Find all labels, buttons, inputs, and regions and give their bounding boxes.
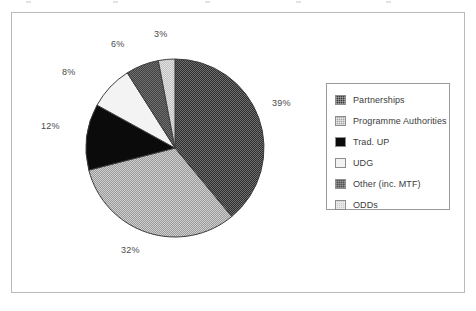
legend-item-other[interactable]: Other (inc. MTF) (335, 178, 421, 190)
legend-swatch-other-icon (335, 179, 346, 189)
legend-swatch-trad-up-icon (335, 137, 346, 147)
legend-label-partnerships: Partnerships (353, 95, 405, 105)
pie-label-partnerships: 39% (272, 98, 291, 108)
legend-label-odds: ODDs (353, 200, 378, 210)
legend-label-programme-authorities: Programme Authorities (353, 116, 447, 126)
legend-item-udg[interactable]: UDG (335, 157, 373, 169)
legend-swatch-udg-icon (335, 158, 346, 168)
pie-slice-group (86, 59, 264, 237)
legend-swatch-odds-icon (335, 200, 346, 210)
legend-item-programme-authorities[interactable]: Programme Authorities (335, 115, 447, 127)
figure-canvas: 39% 32% 12% 8% 6% 3% Partnerships Progra… (0, 0, 476, 311)
legend-item-trad-up[interactable]: Trad. UP (335, 136, 389, 148)
pie-label-other: 6% (111, 39, 124, 49)
legend-label-trad-up: Trad. UP (353, 137, 389, 147)
pie-label-trad-up: 12% (41, 121, 60, 131)
legend-swatch-partnerships-icon (335, 95, 346, 105)
pie-label-programme-authorities: 32% (121, 245, 140, 255)
chart-legend: Partnerships Programme Authorities Trad.… (326, 83, 450, 210)
legend-item-partnerships[interactable]: Partnerships (335, 94, 405, 106)
pie-label-odds: 3% (154, 29, 167, 39)
legend-label-udg: UDG (353, 158, 373, 168)
legend-swatch-programme-authorities-icon (335, 116, 346, 126)
pie-label-udg: 8% (62, 67, 75, 77)
legend-label-other: Other (inc. MTF) (353, 179, 421, 189)
legend-item-odds[interactable]: ODDs (335, 199, 378, 211)
